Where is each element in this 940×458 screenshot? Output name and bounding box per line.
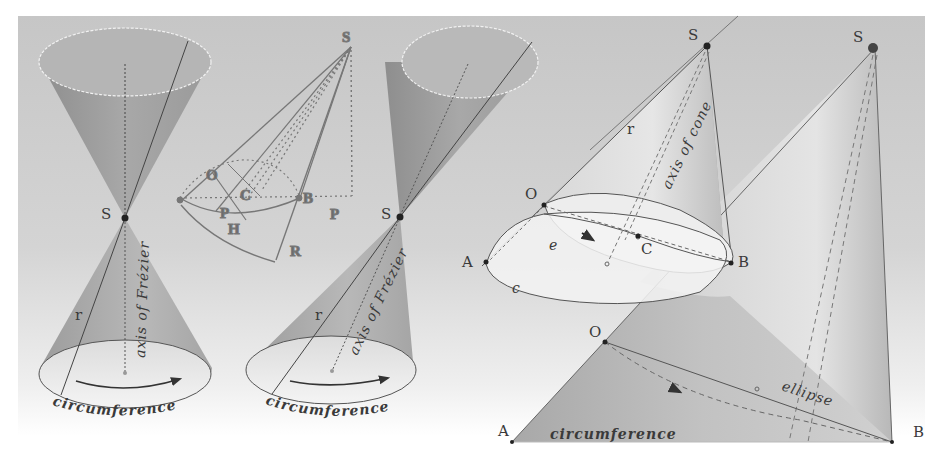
engraving-label-p2: P [330,206,339,222]
point-a-label: A [461,253,473,271]
apex-point [868,43,878,53]
apex-label: S [101,205,111,223]
circumference-label: circumference [550,426,677,442]
point-o-label: O [589,323,601,341]
point-b-label: B [738,253,749,271]
point-a-label: A [497,422,509,440]
generator-label: r [627,120,635,138]
engraving-label-s: S [342,29,350,45]
engraving-label-b: B [303,190,313,206]
point-o-label: O [525,185,537,203]
curve-e-label: e [549,237,558,253]
engraving-label-r: R [290,243,301,259]
point-c-label: C [641,240,652,258]
apex-point [704,43,711,50]
apex-point [122,215,129,222]
generator-label: r [315,306,323,324]
engraving-label-c: C [240,187,251,203]
curve-c-label: c [512,280,521,296]
generator-label: r [75,306,83,324]
point-b-label: B [913,423,924,441]
apex-point [397,214,404,221]
engraving-label-o: O [206,167,218,183]
apex-label: S [688,26,698,44]
engraving-label-p1: P [220,205,229,221]
diagram-canvas: S r axis of Frézier circumference S O C … [0,0,940,458]
engraving-label-h: H [228,221,240,237]
cone-sections-figure: S r axis of Frézier circumference S O C … [0,0,940,458]
apex-label: S [381,205,391,223]
apex-label: S [853,28,863,46]
